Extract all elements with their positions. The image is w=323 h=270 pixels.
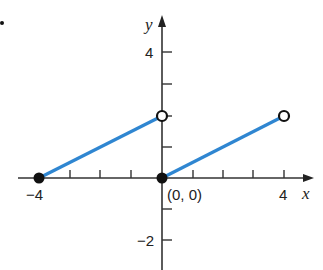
tick-label-y-neg2: −2 — [137, 232, 154, 249]
y-axis-label: y — [143, 15, 153, 34]
tick-label-x-neg4: −4 — [26, 186, 43, 203]
closed-point-origin — [157, 173, 168, 184]
segment-1 — [39, 118, 158, 178]
x-axis-label: x — [301, 184, 310, 203]
origin-annotation: (0, 0) — [167, 186, 202, 203]
segment-2 — [162, 118, 280, 178]
tick-label-x-4: 4 — [279, 186, 287, 203]
tick-label-y-4: 4 — [145, 44, 153, 61]
y-axis — [158, 15, 172, 270]
x-axis-arrow-icon — [303, 174, 314, 182]
closed-point-neg4-0 — [34, 173, 45, 184]
y-axis-arrow-icon — [158, 15, 166, 27]
piecewise-graph: y x 4 −2 −4 4 (0, 0) — [0, 0, 323, 270]
y-ticks — [162, 52, 172, 240]
open-point-0-2 — [157, 111, 167, 121]
bullet-mark — [0, 21, 4, 25]
open-point-4-2 — [279, 111, 289, 121]
